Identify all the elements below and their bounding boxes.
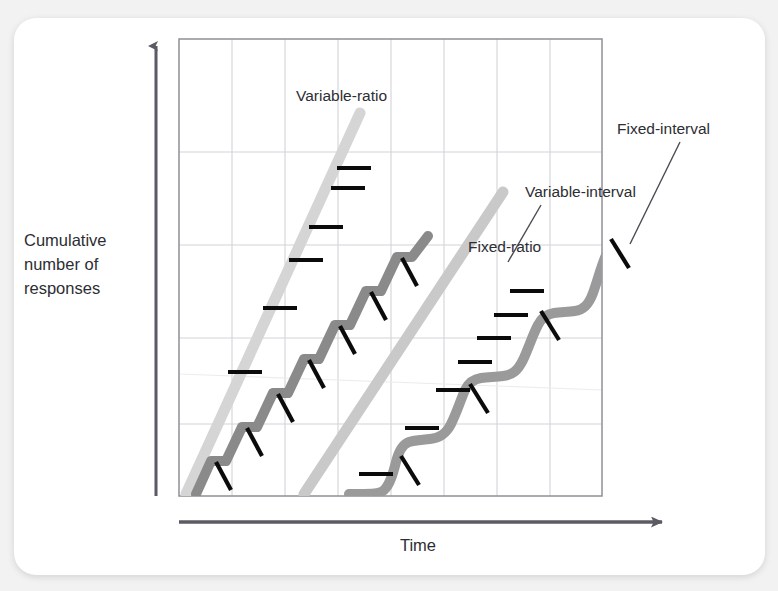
x-axis-label: Time bbox=[400, 536, 436, 554]
y-axis-label-line-3: responses bbox=[24, 279, 100, 297]
chart-svg: Variable-ratio Fixed-ratio Variable-inte… bbox=[0, 0, 778, 591]
leader-line-fixed-interval bbox=[630, 142, 680, 244]
label-fixed-ratio: Fixed-ratio bbox=[468, 238, 541, 255]
label-variable-interval: Variable-interval bbox=[525, 183, 636, 200]
cumulative-response-chart: Variable-ratio Fixed-ratio Variable-inte… bbox=[0, 0, 778, 591]
y-axis-label-line-1: Cumulative bbox=[24, 231, 107, 249]
label-fixed-interval: Fixed-interval bbox=[617, 120, 710, 137]
label-variable-ratio: Variable-ratio bbox=[296, 87, 387, 104]
series-variable-ratio bbox=[186, 113, 360, 494]
y-axis-label-line-2: number of bbox=[24, 255, 99, 273]
